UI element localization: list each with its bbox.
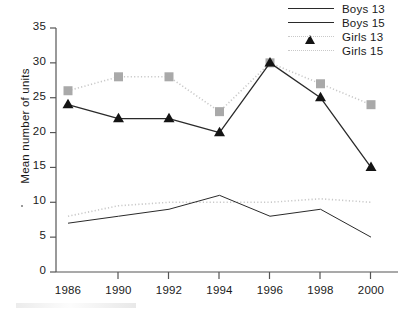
data-series-layer <box>63 57 377 237</box>
data-point-marker <box>316 79 325 88</box>
series-girls-15 <box>64 58 376 116</box>
x-tick-label: 1986 <box>46 284 90 296</box>
series-line <box>68 199 371 216</box>
data-point-marker <box>367 100 376 109</box>
line-chart: Boys 13 Boys 15 Girls 13 <box>0 0 408 314</box>
data-point-marker <box>165 72 174 81</box>
scan-artifact <box>16 303 136 308</box>
series-girls-13 <box>68 199 371 216</box>
x-tick-label: 1994 <box>198 284 242 296</box>
x-tick-label: 1998 <box>299 284 343 296</box>
series-line <box>68 195 371 237</box>
x-tick-label: 2000 <box>349 284 393 296</box>
y-tick-label: 35 <box>22 20 46 32</box>
data-point-marker <box>315 92 326 102</box>
data-point-marker <box>164 113 175 123</box>
y-axis-title: Mean number of units <box>19 51 31 201</box>
x-axis-ticks <box>118 272 371 279</box>
y-axis-ticks <box>50 28 56 272</box>
plot-area <box>0 0 408 314</box>
data-point-marker <box>215 107 224 116</box>
data-point-marker <box>114 72 123 81</box>
series-boys-13 <box>68 195 371 237</box>
axis-lines <box>56 28 398 272</box>
y-tick-label: 5 <box>22 229 46 241</box>
data-point-marker <box>63 99 74 109</box>
x-tick-label: 1996 <box>248 284 292 296</box>
x-tick-label: 1990 <box>97 284 141 296</box>
data-point-marker <box>64 86 73 95</box>
scan-speck <box>21 205 23 207</box>
x-tick-label: 1992 <box>147 284 191 296</box>
y-tick-label: 0 <box>22 264 46 276</box>
